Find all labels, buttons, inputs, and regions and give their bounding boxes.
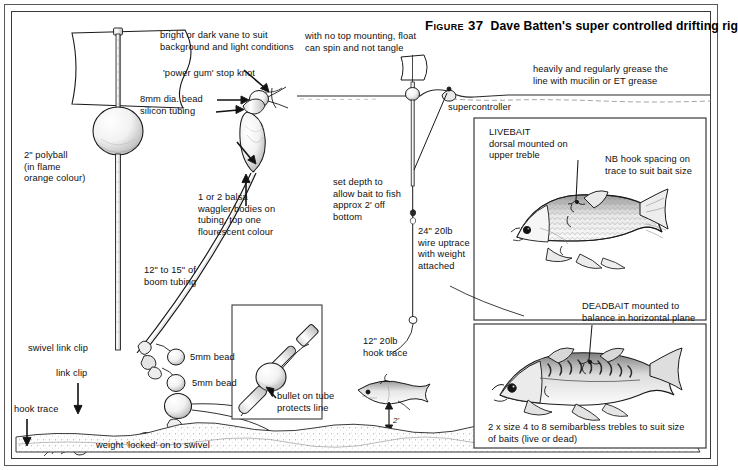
label-link-clip: link clip [56,368,87,380]
label-polyball: 2" polyball (in flame orange colour) [24,150,85,185]
label-nb-hook-spacing: NB hook spacing on trace to suit bait si… [605,154,692,177]
label-weight-locked: weight 'locked' on to swivel [96,440,210,452]
label-5mm-bead-upper: 5mm bead [190,352,235,364]
label-trebles: 2 x size 4 to 8 semibarbless trebles to … [488,422,685,445]
label-livebait: LIVEBAIT dorsal mounted on upper treble [489,127,568,162]
label-depth-off-bottom: 2' [393,415,399,427]
label-boom-tubing: 12" to 15" of boom tubing [144,265,196,288]
label-stop-knot: 'power gum' stop knot [163,68,255,80]
label-deadbait: DEADBAIT mounted to balance in horizonta… [582,301,695,324]
label-hook-trace-left: hook trace [14,404,58,416]
label-no-top-mounting: with no top mounting, float can spin and… [305,31,416,54]
label-5mm-bead-lower: 5mm bead [192,378,237,390]
label-8mm-bead: 8mm dia. bead [140,94,203,106]
label-waggler-bodies: 1 or 2 balsa waggler bodies on tubing, t… [198,192,275,238]
figure-number: Figure 37 [425,18,484,33]
label-bullet-on-tube: bullet on tube protects line [277,391,334,414]
label-supercontroller: supercontroller [448,102,511,114]
figure-title: Figure 37 Dave Batten's super controlled… [425,18,738,33]
label-set-depth: set depth to allow bait to fish approx 2… [333,177,401,223]
label-vane: bright or dark vane to suit background a… [160,30,294,53]
figure-title-text: Dave Batten's super controlled drifting … [490,19,738,33]
label-uptrace: 24" 20lb wire uptrace with weight attach… [418,226,470,272]
label-hook-trace-12: 12" 20lb hook trace [363,336,407,359]
label-swivel-link-clip: swivel link clip [28,343,88,355]
label-silicon-tubing: silicon tubing [140,106,195,118]
label-grease: heavily and regularly grease the line wi… [533,64,668,87]
